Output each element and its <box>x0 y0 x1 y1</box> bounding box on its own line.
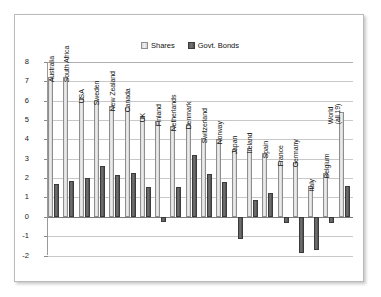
y-tick-mark--2 <box>44 256 48 257</box>
category-label: World(all 19) <box>326 104 340 125</box>
bar-shares <box>216 139 221 216</box>
bar-group <box>47 62 62 255</box>
bar-shares <box>186 124 191 217</box>
y-tick-label-1: 1 <box>3 194 29 202</box>
screenshot-root: Shares Govt. Bonds 876543210-1-2 Austral… <box>0 0 381 297</box>
legend-swatch-govt-bonds-icon <box>188 42 195 49</box>
category-label: Ireland <box>246 133 253 154</box>
y-tick-label-8: 8 <box>3 58 29 66</box>
y-tick-label-2: 2 <box>3 174 29 182</box>
bar-group <box>261 62 276 255</box>
bar-bonds <box>268 193 273 217</box>
bar-bonds <box>207 174 212 217</box>
bar-group <box>185 62 200 255</box>
category-label: UK <box>139 113 146 123</box>
legend-label-shares: Shares <box>151 42 175 50</box>
bar-shares <box>94 100 99 217</box>
bar-bonds <box>69 181 74 217</box>
category-label: Canada <box>124 88 131 112</box>
bar-shares <box>201 138 206 216</box>
bar-group <box>169 62 184 255</box>
y-tick-label-6: 6 <box>3 97 29 105</box>
bar-shares <box>79 98 84 217</box>
bar-group <box>307 62 322 255</box>
bar-bonds <box>299 217 304 253</box>
bar-bonds <box>115 175 120 217</box>
category-label: Finland <box>154 104 161 126</box>
bar-shares <box>109 106 114 217</box>
bar-bonds <box>329 217 334 223</box>
y-tick-label-0: 0 <box>3 213 29 221</box>
bar-group <box>154 62 169 255</box>
bar-group <box>200 62 215 255</box>
bar-shares <box>140 117 145 217</box>
bar-bonds <box>284 217 289 223</box>
y-tick-label-5: 5 <box>3 116 29 124</box>
bar-bonds <box>176 187 181 217</box>
bar-bonds <box>161 217 166 222</box>
bar-shares <box>48 77 53 216</box>
y-tick-label-7: 7 <box>3 78 29 86</box>
bar-bonds <box>238 217 243 239</box>
bar-bonds <box>192 155 197 217</box>
chart-legend: Shares Govt. Bonds <box>141 42 239 50</box>
category-label: Sweden <box>93 80 100 105</box>
bar-group <box>338 62 353 255</box>
bar-bonds <box>100 166 105 216</box>
bar-bonds <box>85 178 90 217</box>
bar-shares <box>170 126 175 217</box>
bar-group <box>231 62 246 255</box>
category-label: Spain <box>261 141 268 158</box>
legend-item-govt-bonds: Govt. Bonds <box>188 42 239 50</box>
category-label: Germany <box>292 139 299 167</box>
category-label: France <box>277 145 284 166</box>
legend-label-govt-bonds: Govt. Bonds <box>198 42 239 50</box>
bar-group <box>246 62 261 255</box>
bar-group <box>215 62 230 255</box>
bar-bonds <box>314 217 319 250</box>
y-tick-label--1: -1 <box>3 232 29 240</box>
y-tick-label-4: 4 <box>3 136 29 144</box>
bar-shares <box>278 161 283 217</box>
bar-shares <box>125 107 130 217</box>
bar-bonds <box>345 186 350 217</box>
bar-bonds <box>253 200 258 216</box>
category-label: Italy <box>307 179 314 191</box>
bar-bonds <box>54 184 59 217</box>
category-label: South Africa <box>62 46 69 83</box>
bar-shares <box>339 112 344 216</box>
bar-group <box>139 62 154 255</box>
bar-group <box>62 62 77 255</box>
chart-figure-frame: Shares Govt. Bonds 876543210-1-2 Austral… <box>14 14 364 282</box>
legend-item-shares: Shares <box>141 42 175 50</box>
bar-bonds <box>222 182 227 217</box>
bar-shares <box>63 77 68 216</box>
gridline--2 <box>47 256 353 257</box>
bar-shares <box>323 173 328 217</box>
y-tick-label--2: -2 <box>3 252 29 260</box>
y-tick-label-3: 3 <box>3 155 29 163</box>
bar-bonds <box>131 173 136 217</box>
bar-chart: Shares Govt. Bonds 876543210-1-2 Austral… <box>15 15 365 283</box>
legend-swatch-shares-icon <box>141 42 148 49</box>
category-label: Switzerland <box>200 109 207 144</box>
category-label: Belgium <box>323 154 330 179</box>
bar-bonds <box>146 187 151 217</box>
bar-shares <box>262 153 267 217</box>
bar-shares <box>247 148 252 217</box>
category-label: Japan <box>231 136 238 155</box>
category-label: Netherlands <box>170 95 177 132</box>
category-label: Denmark <box>185 102 192 130</box>
category-label: Norway <box>215 122 222 145</box>
category-label: USA <box>78 89 85 103</box>
category-label: Australia <box>47 56 54 82</box>
bar-shares <box>232 149 237 217</box>
bar-shares <box>155 121 160 217</box>
bar-shares <box>293 162 298 217</box>
category-label: New Zealand <box>108 71 115 111</box>
